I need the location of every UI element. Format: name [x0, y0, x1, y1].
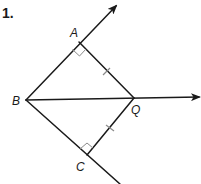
ray-bc	[26, 100, 120, 184]
ray-bq	[26, 97, 199, 100]
point-label-a: A	[69, 26, 78, 40]
diagram-canvas: 1. A B Q C	[0, 0, 201, 184]
geometry-figure: 1. A B Q C	[0, 0, 201, 184]
segment-aq	[79, 42, 134, 98]
point-label-q: Q	[131, 103, 140, 117]
right-angle-mark-c	[80, 143, 93, 149]
point-label-c: C	[76, 160, 85, 174]
problem-number: 1.	[2, 5, 14, 21]
point-label-b: B	[12, 94, 20, 108]
segment-cq	[87, 98, 134, 155]
ray-ba	[26, 6, 116, 100]
